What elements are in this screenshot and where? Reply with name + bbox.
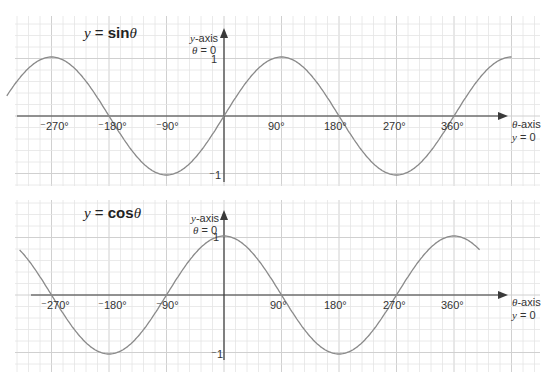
cos-grid (15, 200, 540, 372)
cos-y-tick-1: 1 (213, 231, 219, 243)
sin-y-tick-1: 1 (211, 53, 217, 65)
cos-theta-axis-arrow-icon (498, 291, 508, 299)
sin-theta-axis-note: y = 0 (511, 131, 536, 143)
sin-x-tick: ⁻90° (156, 120, 179, 132)
sin-x-tick: 360° (441, 120, 464, 132)
cos-y-tick-minus1: ⁻1 (211, 348, 223, 360)
sin-x-tick: 90° (268, 120, 285, 132)
cos-x-tick: ⁻270° (41, 299, 70, 311)
sin-theta-axis-label: θ-axis (512, 118, 541, 130)
sin-grid (15, 16, 540, 186)
sin-y-axis-arrow-icon (220, 28, 228, 38)
cos-x-tick: 270° (383, 299, 406, 311)
sin-x-tick: ⁻270° (40, 120, 69, 132)
sin-chart-title: y = sinθ (82, 24, 137, 41)
cos-x-tick: 360° (441, 299, 464, 311)
cos-y-axis-label: y-axis (190, 212, 220, 224)
cos-x-tick: ⁻90° (156, 299, 179, 311)
sin-x-tick: ⁻180° (98, 120, 127, 132)
sin-theta-axis-arrow-icon (498, 112, 508, 120)
sin-y-tick-minus1: ⁻1 (209, 169, 221, 181)
cos-y-axis-arrow-icon (220, 210, 228, 220)
sin-chart: y = sinθ y-axis θ = 0 θ-axis y = 0 1 ⁻1 … (7, 16, 541, 186)
cos-x-tick: ⁻180° (98, 299, 127, 311)
sin-y-axis-label: y-axis (189, 32, 219, 44)
cos-chart: y = cosθ y-axis θ = 0 θ-axis y = 0 1 ⁻1 … (15, 200, 541, 372)
sin-x-tick: 180° (324, 120, 347, 132)
cos-chart-title: y = cosθ (82, 204, 142, 221)
cos-x-tick: 90° (270, 299, 287, 311)
trig-graphs-figure: y = sinθ y-axis θ = 0 θ-axis y = 0 1 ⁻1 … (0, 0, 559, 372)
cos-x-tick: 180° (324, 299, 347, 311)
sin-x-tick: 270° (383, 120, 406, 132)
cos-theta-axis-label: θ-axis (512, 296, 541, 308)
cos-theta-axis-note: y = 0 (511, 309, 536, 321)
